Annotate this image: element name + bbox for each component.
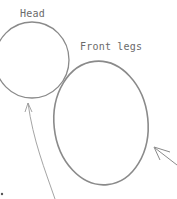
arrow-line-up	[28, 103, 55, 199]
sketch-canvas	[0, 0, 177, 199]
head-circle	[0, 22, 69, 98]
front-legs-label: Front legs	[80, 41, 142, 52]
stray-mark	[1, 193, 3, 195]
head-label: Head	[20, 8, 45, 19]
front-legs-oval	[48, 56, 154, 189]
